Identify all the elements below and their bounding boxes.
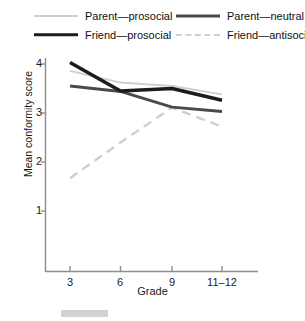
plot-area: Mean conformity score Grade 4 3 2 1 3 6 … [0,0,305,321]
figure: Parent—prosocial Friend—prosocial Parent… [0,0,305,321]
x-tick-label-grade-3: 3 [56,276,84,288]
data-series-group [70,63,222,179]
x-tick-label-grade-6: 6 [106,276,134,288]
series-line-friend-antisocial [70,108,222,179]
y-axis-label: Mean conformity score [22,49,34,199]
y-tick-label-2: 2 [22,155,42,167]
footer-gray-bar [61,310,108,317]
x-axis-label: Grade [0,285,305,297]
series-line-friend-prosocial [70,63,222,101]
y-tick-label-4: 4 [22,57,42,69]
x-axis-ticks [70,266,222,272]
y-tick-label-1: 1 [22,204,42,216]
x-tick-label-grade-9: 9 [158,276,186,288]
chart-canvas [0,0,305,321]
y-tick-label-3: 3 [22,106,42,118]
x-tick-label-grade-11-12: 11–12 [200,276,244,288]
